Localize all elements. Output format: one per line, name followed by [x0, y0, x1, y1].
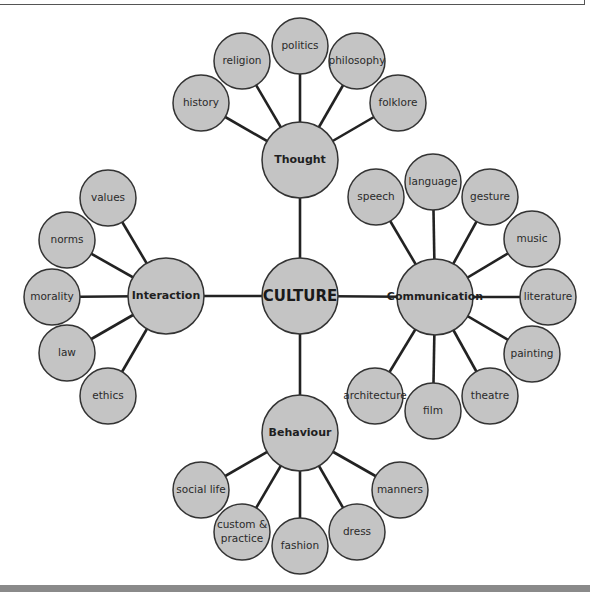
leaf-node-gesture-label: gesture: [470, 190, 510, 202]
hub-node-behaviour: Behaviour: [262, 395, 338, 471]
leaf-node-religion: religion: [214, 33, 270, 89]
bottom-bar: [0, 585, 590, 592]
leaf-node-theatre: theatre: [462, 368, 518, 424]
leaf-node-history-label: history: [183, 96, 219, 108]
hub-node-interaction-label: Interaction: [132, 289, 200, 302]
leaf-node-ethics: ethics: [80, 368, 136, 424]
leaf-node-law: law: [39, 325, 95, 381]
leaf-node-folklore-label: folklore: [378, 96, 417, 108]
leaf-node-social-life: social life: [173, 462, 229, 518]
leaf-node-norms-label: norms: [51, 233, 84, 245]
leaf-node-painting-label: painting: [510, 347, 553, 359]
leaf-node-film-label: film: [423, 404, 443, 416]
leaf-node-folklore: folklore: [370, 75, 426, 131]
leaf-node-custom: custom &practice: [214, 504, 270, 560]
root-node-culture: CULTURE: [262, 258, 338, 334]
leaf-node-literature-label: literature: [524, 290, 572, 302]
leaf-node-fashion: fashion: [272, 518, 328, 574]
leaf-node-theatre-label: theatre: [471, 389, 509, 401]
hub-node-communication: Communication: [387, 259, 483, 335]
leaf-node-manners: manners: [372, 462, 428, 518]
root-node-culture-label: CULTURE: [263, 287, 337, 305]
leaf-node-dress: dress: [329, 504, 385, 560]
leaf-node-morality: morality: [24, 269, 80, 325]
leaf-node-dress-label: dress: [343, 525, 371, 537]
leaf-node-philosophy-label: philosophy: [328, 54, 385, 66]
leaf-node-politics-label: politics: [281, 39, 318, 51]
leaf-node-norms: norms: [39, 212, 95, 268]
leaf-node-values: values: [80, 170, 136, 226]
leaf-node-painting: painting: [504, 326, 560, 382]
leaf-node-architecture-label: architecture: [343, 389, 407, 401]
leaf-node-language: language: [405, 154, 461, 210]
leaf-node-speech: speech: [348, 169, 404, 225]
leaf-node-religion-label: religion: [222, 54, 261, 66]
leaf-node-manners-label: manners: [377, 483, 423, 495]
leaf-node-gesture: gesture: [462, 169, 518, 225]
leaf-node-law-label: law: [58, 346, 76, 358]
hub-node-behaviour-label: Behaviour: [269, 426, 332, 439]
leaf-node-speech-label: speech: [357, 190, 394, 202]
culture-mind-map: CULTUREThoughthistoryreligionpoliticsphi…: [0, 0, 595, 592]
leaf-node-philosophy: philosophy: [328, 33, 385, 89]
leaf-node-language-label: language: [409, 175, 458, 187]
leaf-node-music: music: [504, 211, 560, 267]
leaf-node-morality-label: morality: [30, 290, 74, 302]
hub-node-interaction: Interaction: [128, 258, 204, 334]
hub-node-thought-label: Thought: [274, 153, 326, 166]
hub-node-communication-label: Communication: [387, 290, 483, 303]
hub-node-thought: Thought: [262, 122, 338, 198]
leaf-node-values-label: values: [91, 191, 125, 203]
leaf-node-literature: literature: [520, 269, 576, 325]
leaf-node-film: film: [405, 383, 461, 439]
leaf-node-custom-label: practice: [221, 532, 263, 544]
leaf-node-politics: politics: [272, 18, 328, 74]
leaf-node-social-life-label: social life: [176, 483, 225, 495]
leaf-node-ethics-label: ethics: [92, 389, 123, 401]
leaf-node-history: history: [173, 75, 229, 131]
leaf-node-custom-label: custom &: [217, 518, 267, 530]
leaf-node-music-label: music: [516, 232, 547, 244]
leaf-node-architecture: architecture: [343, 368, 407, 424]
leaf-node-fashion-label: fashion: [281, 539, 319, 551]
